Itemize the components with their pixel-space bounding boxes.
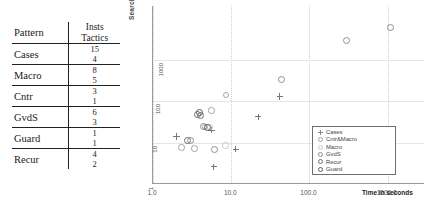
legend-item-cases[interactable]: Cases <box>316 129 392 136</box>
legend-item-macro[interactable]: Macro <box>316 144 392 151</box>
x-gridline <box>153 6 154 183</box>
x-tick-label: 10.0 <box>218 189 242 196</box>
row-insts: 15 <box>69 44 120 55</box>
row-insts: 1 <box>69 128 120 139</box>
circle-marker-icon <box>316 151 326 158</box>
row-label: GvdS <box>12 107 69 128</box>
table-row: Cntr 3 <box>12 86 120 97</box>
legend-item-guard[interactable]: Guard <box>316 166 392 173</box>
table-row: Cases 15 <box>12 44 120 55</box>
data-point <box>178 144 185 151</box>
y-gridline <box>153 101 424 102</box>
data-point <box>223 92 230 99</box>
data-point <box>211 164 218 171</box>
y-axis-label: Search Space <box>128 0 135 20</box>
circle-marker-icon <box>316 166 326 173</box>
header-insts: Insts <box>69 22 120 33</box>
row-label: Guard <box>12 128 69 149</box>
row-label: Cases <box>12 44 69 65</box>
data-point <box>233 146 240 153</box>
row-label: Macro <box>12 65 69 86</box>
row-label: Recur <box>12 149 69 170</box>
scatter-chart: Search Space 1.010.0100.01000.0110100100… <box>130 0 446 208</box>
legend-label: Macro <box>326 144 342 151</box>
data-point <box>173 133 180 140</box>
y-gridline <box>153 60 424 61</box>
table-row: Guard 1 <box>12 128 120 139</box>
legend-label: Cntr&Macro <box>326 136 357 143</box>
circle-marker-icon <box>316 159 326 166</box>
y-tick-label: 1000 <box>158 63 164 76</box>
legend-item-cntr-macro[interactable]: Cntr&Macro <box>316 136 392 143</box>
x-tick-label: 100.0 <box>296 189 320 196</box>
table-row: Macro 8 <box>12 65 120 76</box>
x-axis-label: Time in seconds <box>362 189 413 196</box>
circle-marker-icon <box>316 137 326 144</box>
x-gridline <box>231 6 232 183</box>
row-label: Cntr <box>12 86 69 107</box>
y-tick-label: 10 <box>152 146 158 153</box>
legend-item-gvds[interactable]: GvdS <box>316 151 392 158</box>
row-tactics: 1 <box>69 138 120 149</box>
figure-root: Pattern Insts Tactics Cases 15 4 Macro 8 <box>0 0 446 208</box>
header-pattern: Pattern <box>12 22 69 44</box>
row-tactics: 2 <box>69 159 120 169</box>
circle-marker-icon <box>316 144 326 151</box>
header-tactics: Tactics <box>69 33 120 44</box>
data-point <box>278 76 285 83</box>
data-point <box>222 142 229 149</box>
chart-legend[interactable]: Cases Cntr&Macro Macro GvdS Recur Guard <box>312 126 396 175</box>
row-tactics: 3 <box>69 117 120 128</box>
x-gridline <box>309 6 310 183</box>
legend-label: Recur <box>326 159 341 166</box>
data-point <box>343 37 350 44</box>
legend-label: Guard <box>326 166 342 173</box>
data-point <box>211 146 218 153</box>
data-point <box>387 24 394 31</box>
legend-label: Cases <box>326 129 342 136</box>
data-point <box>208 107 215 114</box>
data-point <box>191 145 198 152</box>
legend-item-recur[interactable]: Recur <box>316 159 392 166</box>
pattern-table: Pattern Insts Tactics Cases 15 4 Macro 8 <box>12 22 120 169</box>
data-point <box>277 93 284 100</box>
row-insts: 4 <box>69 149 120 160</box>
table-row: GvdS 6 <box>12 107 120 118</box>
row-insts: 6 <box>69 107 120 118</box>
y-tick-label: 100 <box>155 104 161 114</box>
plus-marker-icon <box>316 129 326 136</box>
data-point <box>255 114 262 121</box>
y-tick-label: 1 <box>148 187 154 190</box>
row-tactics: 1 <box>69 96 120 107</box>
row-tactics: 4 <box>69 54 120 65</box>
table-header-row: Pattern Insts <box>12 22 120 33</box>
row-insts: 8 <box>69 65 120 76</box>
row-insts: 3 <box>69 86 120 97</box>
row-tactics: 5 <box>69 75 120 86</box>
table-row: Recur 4 <box>12 149 120 160</box>
legend-label: GvdS <box>326 151 341 158</box>
pattern-table-container: Pattern Insts Tactics Cases 15 4 Macro 8 <box>12 22 120 169</box>
table-body: Pattern Insts Tactics Cases 15 4 Macro 8 <box>12 22 120 169</box>
